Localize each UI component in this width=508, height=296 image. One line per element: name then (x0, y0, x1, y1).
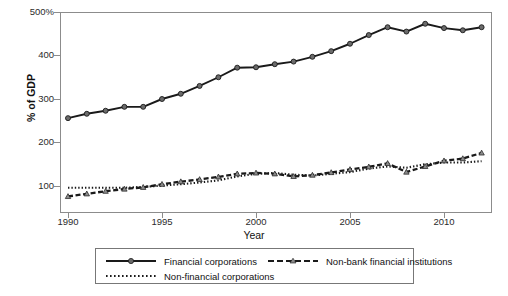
data-point-marker (254, 65, 259, 70)
data-point-marker (178, 91, 183, 96)
data-point-marker (310, 54, 315, 59)
data-point-marker (84, 111, 89, 116)
y-tick-label-100: 100 (8, 181, 54, 191)
x-tick-label-2005: 2005 (320, 216, 380, 227)
series-line (68, 24, 482, 118)
legend-entry-financial-corporations: Financial corporations (105, 253, 257, 269)
data-point-marker (66, 116, 71, 121)
data-point-marker (103, 108, 108, 113)
chart-legend: Financial corporations Non-financial cor… (95, 248, 414, 284)
legend-label-non-financial-corporations: Non-financial corporations (164, 271, 274, 282)
y-axis: 500% 400 300 200 100 (0, 0, 54, 296)
data-point-marker (197, 83, 202, 88)
x-axis-label: Year (0, 229, 508, 241)
data-point-marker (460, 28, 465, 33)
chart-figure: 500% 400 300 200 100 % of GDP 1990 1995 … (0, 0, 508, 296)
data-point-marker (216, 75, 221, 80)
legend-key-solid-icon (105, 255, 157, 267)
data-point-marker (423, 21, 428, 26)
data-point-marker (404, 29, 409, 34)
x-tick-label-1990: 1990 (38, 216, 98, 227)
data-point-marker (348, 41, 353, 46)
legend-label-financial-corporations: Financial corporations (164, 256, 257, 267)
data-point-marker (366, 33, 371, 38)
x-tick-label-2000: 2000 (226, 216, 286, 227)
data-point-marker (479, 25, 484, 30)
data-point-marker (235, 65, 240, 70)
data-point-marker (385, 25, 390, 30)
x-tick-label-2010: 2010 (414, 216, 474, 227)
data-point-marker (160, 97, 165, 102)
legend-entry-non-financial-corporations: Non-financial corporations (105, 268, 274, 284)
y-axis-label: % of GDP (25, 53, 37, 143)
data-point-marker (329, 49, 334, 54)
series-canvas (60, 12, 492, 213)
series-non-bank-financial-institutions (65, 150, 484, 198)
data-point-marker (122, 104, 127, 109)
data-point-marker (272, 62, 277, 67)
legend-key-dashed-icon (267, 255, 319, 267)
data-point-marker (442, 26, 447, 31)
legend-label-non-bank-financial-institutions: Non-bank financial institutions (326, 256, 452, 267)
legend-key-dotted-icon (105, 270, 157, 282)
series-financial-corporations (66, 21, 485, 120)
y-tick-label-500: 500% (8, 7, 54, 17)
data-point-marker (291, 59, 296, 64)
legend-entry-non-bank-financial-institutions: Non-bank financial institutions (267, 253, 452, 269)
data-point-marker (141, 104, 146, 109)
x-tick-label-1995: 1995 (132, 216, 192, 227)
